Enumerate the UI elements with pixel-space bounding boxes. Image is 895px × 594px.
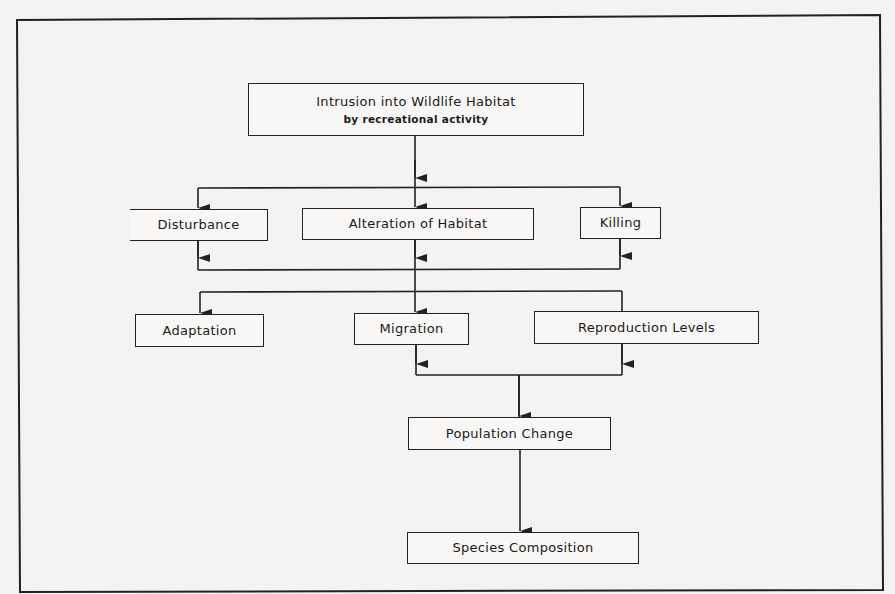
node-killing-label: Killing (600, 215, 642, 231)
node-species-composition: Species Composition (407, 532, 639, 564)
node-population-change: Population Change (408, 417, 611, 450)
node-adaptation-label: Adaptation (162, 323, 236, 339)
node-killing: Killing (580, 207, 661, 239)
node-species-label: Species Composition (452, 540, 593, 556)
node-disturbance-label: Disturbance (158, 217, 240, 233)
node-migration-label: Migration (380, 321, 444, 337)
node-disturbance: Disturbance (130, 209, 268, 241)
node-alteration-label: Alteration of Habitat (349, 216, 488, 232)
node-alteration-of-habitat: Alteration of Habitat (302, 208, 534, 240)
node-reproduction-levels: Reproduction Levels (534, 311, 759, 344)
node-population-label: Population Change (446, 426, 573, 442)
node-adaptation: Adaptation (135, 314, 264, 347)
node-intrusion: Intrusion into Wildlife Habitat by recre… (248, 83, 584, 136)
node-reproduction-label: Reproduction Levels (578, 320, 715, 336)
node-intrusion-title: Intrusion into Wildlife Habitat (316, 94, 516, 110)
node-migration: Migration (354, 313, 469, 345)
node-intrusion-subtitle: by recreational activity (343, 113, 488, 126)
